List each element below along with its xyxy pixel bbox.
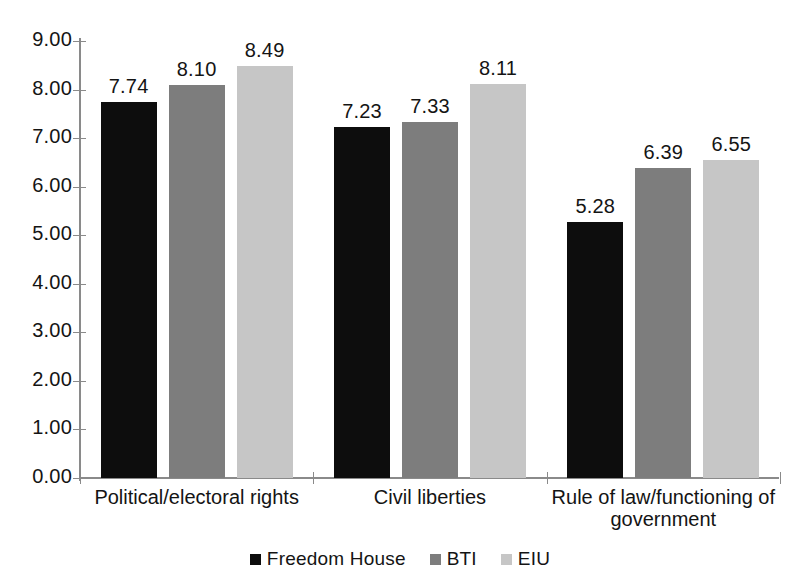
legend-label: BTI (447, 548, 477, 570)
bar-value-label: 8.49 (227, 39, 303, 62)
legend-swatch-icon (430, 554, 441, 565)
y-axis-tick-label: 3.00 (2, 319, 72, 342)
y-axis-tick-label: 5.00 (2, 222, 72, 245)
y-axis-tick-label: 9.00 (2, 28, 72, 51)
bar (470, 84, 526, 478)
y-axis-tick-label: 6.00 (2, 174, 72, 197)
bar (101, 102, 157, 478)
bar-chart: 0.001.002.003.004.005.006.007.008.009.00… (0, 0, 800, 579)
bar (237, 66, 293, 478)
category-label: Rule of law/functioning of government (522, 486, 800, 530)
bar-value-label: 8.11 (460, 57, 536, 80)
legend-label: Freedom House (267, 548, 406, 570)
y-axis-tick-label: 7.00 (2, 125, 72, 148)
chart-legend: Freedom HouseBTIEIU (0, 548, 800, 570)
y-axis-tick-label: 2.00 (2, 368, 72, 391)
legend-swatch-icon (501, 554, 512, 565)
bar (334, 127, 390, 478)
bar (567, 222, 623, 478)
bar-value-label: 7.33 (392, 95, 468, 118)
bar (169, 85, 225, 478)
bar-value-label: 7.74 (91, 75, 167, 98)
y-axis-tick-label: 0.00 (2, 465, 72, 488)
legend-item: Freedom House (250, 548, 406, 570)
bar-value-label: 7.23 (324, 100, 400, 123)
y-axis-tick-label: 1.00 (2, 416, 72, 439)
legend-item: BTI (430, 548, 477, 570)
legend-item: EIU (501, 548, 550, 570)
bar (402, 122, 458, 478)
x-axis-tick (780, 472, 781, 484)
bar-value-label: 6.55 (693, 133, 769, 156)
bar-value-label: 5.28 (557, 195, 633, 218)
bar-value-label: 8.10 (159, 58, 235, 81)
bar-value-label: 6.39 (625, 141, 701, 164)
bar (703, 160, 759, 478)
y-axis-tick-label: 8.00 (2, 77, 72, 100)
y-axis-tick-label: 4.00 (2, 271, 72, 294)
legend-swatch-icon (250, 554, 261, 565)
bar (635, 168, 691, 478)
legend-label: EIU (518, 548, 550, 570)
